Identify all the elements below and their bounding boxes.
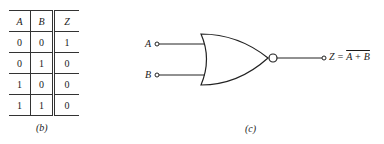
output-prefix: Z =: [329, 51, 346, 62]
output-label: Z = A + B: [329, 51, 370, 62]
terminal-a-icon: [155, 42, 159, 46]
output-expression: A + B: [346, 51, 370, 62]
nor-gate-icon: [201, 34, 268, 85]
input-a-label: A: [145, 38, 151, 49]
inverter-bubble-icon: [269, 54, 277, 62]
nor-gate-diagram: [0, 0, 384, 144]
terminal-z-icon: [322, 56, 326, 60]
caption-c: (c): [245, 123, 256, 134]
terminal-b-icon: [155, 73, 159, 77]
input-b-label: B: [145, 69, 151, 80]
